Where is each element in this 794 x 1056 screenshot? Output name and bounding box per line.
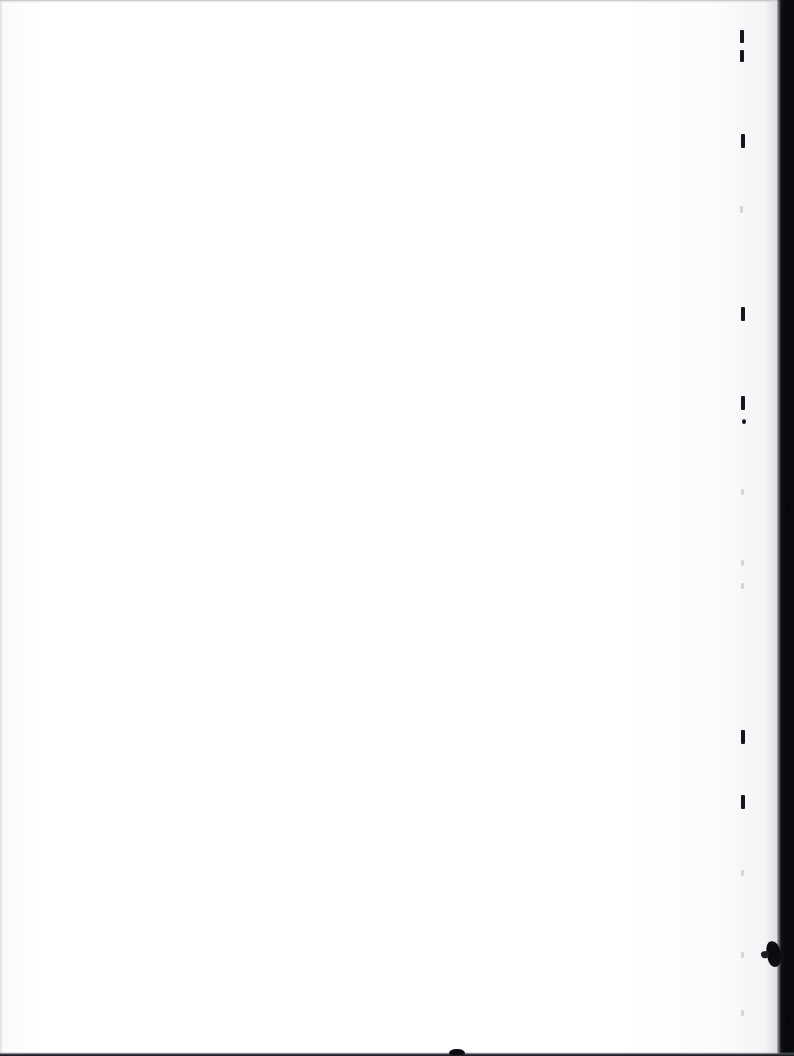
bottom-edge-line	[0, 1052, 794, 1056]
right-scan-band	[777, 0, 794, 1056]
right-band-feather	[765, 0, 777, 1056]
page-body	[0, 0, 794, 1056]
bottom-edge-speck	[449, 1049, 465, 1055]
top-edge-line	[0, 0, 794, 3]
scanned-page	[0, 0, 794, 1056]
left-edge-line	[0, 0, 3, 1056]
